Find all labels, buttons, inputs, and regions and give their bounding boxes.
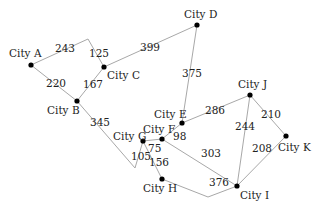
node-city-a: [28, 62, 33, 67]
edge-weight-label: 375: [182, 67, 202, 79]
node-city-d: [194, 22, 199, 27]
edge-weight-label: 208: [252, 142, 272, 154]
node-label: City H: [143, 182, 177, 194]
graph-canvas: 2431252201673993753451057598286156303376…: [0, 0, 314, 211]
node-label: City I: [240, 189, 269, 201]
edge-weight-label: 376: [209, 176, 229, 188]
node-city-b: [74, 98, 79, 103]
node-city-k: [283, 133, 288, 138]
node-label: City D: [184, 8, 217, 20]
node-label: City C: [107, 69, 140, 81]
edge-weight-label: 167: [83, 78, 103, 90]
edge-weight-label: 210: [261, 108, 281, 120]
edge-weight-label: 75: [148, 142, 161, 154]
edge-weight-label: 125: [89, 47, 109, 59]
edge-weight-label: 243: [55, 42, 75, 54]
node-labels-layer: City ACity BCity CCity DCity ECity FCity…: [9, 8, 311, 201]
node-label: City B: [47, 104, 80, 116]
edge-weight-label: 303: [201, 147, 221, 159]
node-city-c: [101, 64, 106, 69]
node-label: City E: [154, 108, 187, 120]
node-label: City A: [9, 47, 42, 59]
edge-weight-label: 399: [140, 41, 160, 53]
edge-weight-label: 244: [235, 120, 255, 132]
node-city-e: [179, 120, 184, 125]
node-label: City J: [238, 78, 267, 90]
node-city-i: [234, 183, 239, 188]
node-label: City F: [143, 123, 175, 135]
edge-weight-label: 156: [149, 156, 169, 168]
node-city-f: [159, 136, 164, 141]
edge-weight-label: 286: [205, 104, 225, 116]
edge-J-I: [237, 95, 250, 186]
edge-weight-label: 345: [90, 116, 110, 128]
node-city-j: [247, 92, 252, 97]
edge-weight-label: 220: [46, 77, 66, 89]
node-label: City K: [278, 141, 311, 153]
node-label: City G: [113, 130, 146, 142]
node-city-h: [159, 176, 164, 181]
